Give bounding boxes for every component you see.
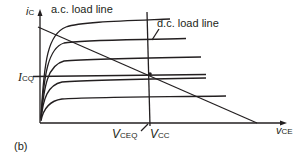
x-axis-label: vCE <box>276 125 293 136</box>
vcc-symbol: V <box>150 127 158 141</box>
x-axis-subscript: CE <box>282 127 293 136</box>
ac-load-line-label: a.c. load line <box>51 4 113 15</box>
q-point-marker <box>148 72 152 76</box>
vceq-label: VCEQ <box>112 128 137 140</box>
dc-label-leader <box>152 29 159 40</box>
collector-curve-1 <box>41 19 170 118</box>
vcc-label: VCC <box>150 128 170 140</box>
vceq-subscript: CEQ <box>120 131 137 140</box>
collector-curve-5 <box>41 96 226 121</box>
vcc-subscript: CC <box>158 131 170 140</box>
panel-label-text: (b) <box>14 140 27 152</box>
y-axis-subscript: C <box>28 8 34 17</box>
dc-load-line <box>147 12 150 126</box>
vceq-leader <box>141 124 148 131</box>
y-axis-arrow-icon <box>38 9 43 16</box>
panel-label: (b) <box>14 141 27 152</box>
y-axis-label: iC <box>26 6 34 17</box>
dc-load-line-label: d.c. load line <box>157 18 219 29</box>
icq-label: ICQ <box>18 71 34 83</box>
icq-subscript: CQ <box>22 74 34 83</box>
vceq-symbol: V <box>112 127 120 141</box>
icq-line <box>33 75 206 77</box>
